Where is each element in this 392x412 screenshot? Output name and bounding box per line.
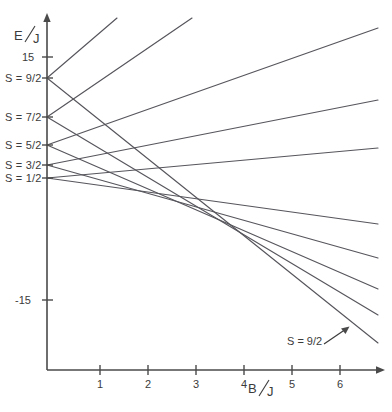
y-tick-label-15: 15: [22, 51, 34, 63]
curve-s32-up: [47, 100, 378, 165]
curve-s52-up: [47, 28, 378, 145]
y-tick-label-s92: S = 9/2: [5, 72, 42, 84]
curve-s72-up: [47, 18, 192, 117]
x-tick-label-5: 5: [289, 378, 295, 390]
x-axis-arrow-icon: [376, 366, 385, 373]
y-axis-arrow-icon: [43, 13, 50, 22]
chart-canvas: E J B J 15 -15 S = 9/2 S = 7/2 S = 5/2 S…: [0, 0, 392, 412]
x-tick-label-3: 3: [193, 378, 199, 390]
y-axis-label-numerator: E: [14, 28, 23, 43]
x-axis-label-denominator: J: [267, 384, 274, 399]
y-tick-label-s72: S = 7/2: [5, 111, 42, 123]
curve-s72-down: [47, 117, 378, 315]
curve-group: [47, 18, 378, 343]
annotation-arrow-icon: [341, 327, 350, 335]
annotation-label: S = 9/2: [287, 335, 322, 347]
y-tick-label-s32: S = 3/2: [5, 159, 42, 171]
y-tick-label-s12: S = 1/2: [5, 172, 42, 184]
zeeman-energy-level-diagram: E J B J 15 -15 S = 9/2 S = 7/2 S = 5/2 S…: [0, 0, 392, 412]
y-axis-label-denominator: J: [33, 31, 40, 46]
curve-s32-down: [47, 165, 378, 258]
x-tick-label-2: 2: [145, 378, 151, 390]
x-tick-label-1: 1: [97, 378, 103, 390]
curve-s12-up: [47, 148, 378, 178]
curve-s92-down: [47, 78, 378, 343]
x-tick-label-4: 4: [241, 378, 247, 390]
x-axis-label: B J: [248, 380, 274, 399]
annotation-leader-line: [324, 329, 346, 344]
annotation-s92-callout: S = 9/2: [287, 327, 350, 348]
y-tick-label-neg15: -15: [15, 294, 31, 306]
y-tick-label-s52: S = 5/2: [5, 139, 42, 151]
x-axis-label-numerator: B: [248, 381, 257, 396]
curve-s92-up: [47, 18, 117, 78]
axis-group: [43, 13, 385, 374]
x-tick-label-6: 6: [337, 378, 343, 390]
y-axis-label: E J: [14, 26, 40, 46]
